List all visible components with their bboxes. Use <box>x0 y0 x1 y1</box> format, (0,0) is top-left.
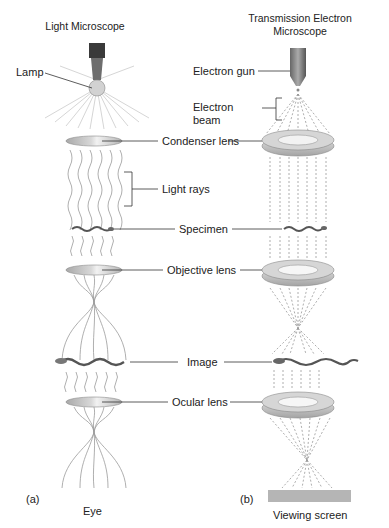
lamp-icon <box>45 43 149 129</box>
title-tem-line2: Microscope <box>240 25 360 38</box>
viewing-screen-plate <box>268 490 351 502</box>
panel-label-b: (b) <box>240 493 253 506</box>
label-eye: Eye <box>83 505 102 518</box>
light-rays-wavy <box>68 150 122 230</box>
specimen-right <box>284 227 322 231</box>
title-tem-line1: Transmission Electron <box>240 12 360 25</box>
electron-gun-icon <box>290 48 306 92</box>
label-image: Image <box>187 356 218 369</box>
label-electron-beam-line2: beam <box>193 114 233 127</box>
title-light-microscope: Light Microscope <box>30 20 140 33</box>
condenser-lens-em <box>262 130 334 156</box>
title-tem: Transmission Electron Microscope <box>240 12 360 37</box>
ocular-lens-em <box>262 392 334 418</box>
label-objective-lens: Objective lens <box>167 264 236 277</box>
objective-lens-em <box>262 260 334 286</box>
label-electron-beam: Electron beam <box>193 101 233 126</box>
label-ocular-lens: Ocular lens <box>172 396 228 409</box>
label-condenser-lens: Condenser lens <box>162 135 239 148</box>
label-viewing-screen: Viewing screen <box>273 509 347 522</box>
label-lamp: Lamp <box>16 66 44 79</box>
panel-label-a: (a) <box>26 493 39 506</box>
specimen-left <box>72 227 112 231</box>
label-light-rays: Light rays <box>162 183 210 196</box>
image-right <box>276 359 358 365</box>
image-left <box>60 359 124 365</box>
label-electron-beam-line1: Electron <box>193 101 233 114</box>
label-electron-gun: Electron gun <box>193 65 255 78</box>
label-specimen: Specimen <box>179 223 228 236</box>
